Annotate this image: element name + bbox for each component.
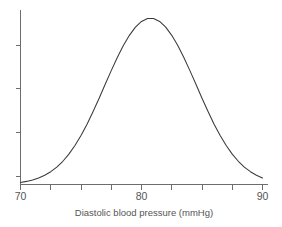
- x-tick-label-80: 80: [136, 190, 148, 202]
- chart-canvas: 70 80 90 Diastolic blood pressure (mmHg): [0, 0, 282, 227]
- distribution-curve: [21, 19, 263, 183]
- x-tick-label-90: 90: [257, 190, 269, 202]
- x-axis-ticks: [21, 185, 263, 190]
- y-axis-ticks: [16, 46, 21, 177]
- x-axis-title: Diastolic blood pressure (mmHg): [75, 207, 213, 218]
- bell-curve-figure: 70 80 90 Diastolic blood pressure (mmHg): [0, 0, 282, 227]
- x-tick-label-70: 70: [15, 190, 27, 202]
